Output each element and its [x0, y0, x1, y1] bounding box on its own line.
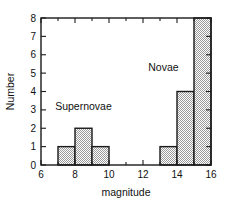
y-tick-label: 2	[30, 123, 36, 134]
y-tick-label: 6	[30, 49, 36, 60]
x-tick-label: 12	[137, 169, 149, 180]
series-annotation: Novae	[148, 61, 179, 73]
histogram-bar	[92, 147, 109, 165]
y-tick-label: 0	[30, 160, 36, 171]
histogram-bar	[58, 147, 75, 165]
y-tick-label: 4	[30, 86, 36, 97]
x-tick-labels: 6810121416	[38, 169, 217, 180]
x-tick-label: 14	[171, 169, 183, 180]
x-tick-label: 8	[72, 169, 78, 180]
histogram-bar	[75, 128, 92, 165]
histogram-bar	[177, 92, 194, 166]
series-annotation: Supernovae	[55, 100, 112, 112]
x-axis-title: magnitude	[101, 186, 150, 198]
x-tick-label: 16	[205, 169, 217, 180]
histogram-chart: 6810121416 012345678 SupernovaeNovae mag…	[0, 0, 225, 203]
y-tick-labels: 012345678	[30, 13, 36, 171]
y-tick-label: 5	[30, 68, 36, 79]
chart-canvas: 6810121416 012345678 SupernovaeNovae mag…	[0, 0, 225, 203]
x-tick-label: 6	[38, 169, 44, 180]
series-annotations: SupernovaeNovae	[55, 61, 179, 112]
x-tick-label: 10	[103, 169, 115, 180]
histogram-bar	[160, 147, 177, 165]
y-tick-label: 3	[30, 104, 36, 115]
y-tick-label: 8	[30, 13, 36, 24]
bars-group	[58, 18, 211, 165]
y-tick-label: 7	[30, 31, 36, 42]
y-axis-title: Number	[4, 72, 16, 110]
y-tick-label: 1	[30, 141, 36, 152]
